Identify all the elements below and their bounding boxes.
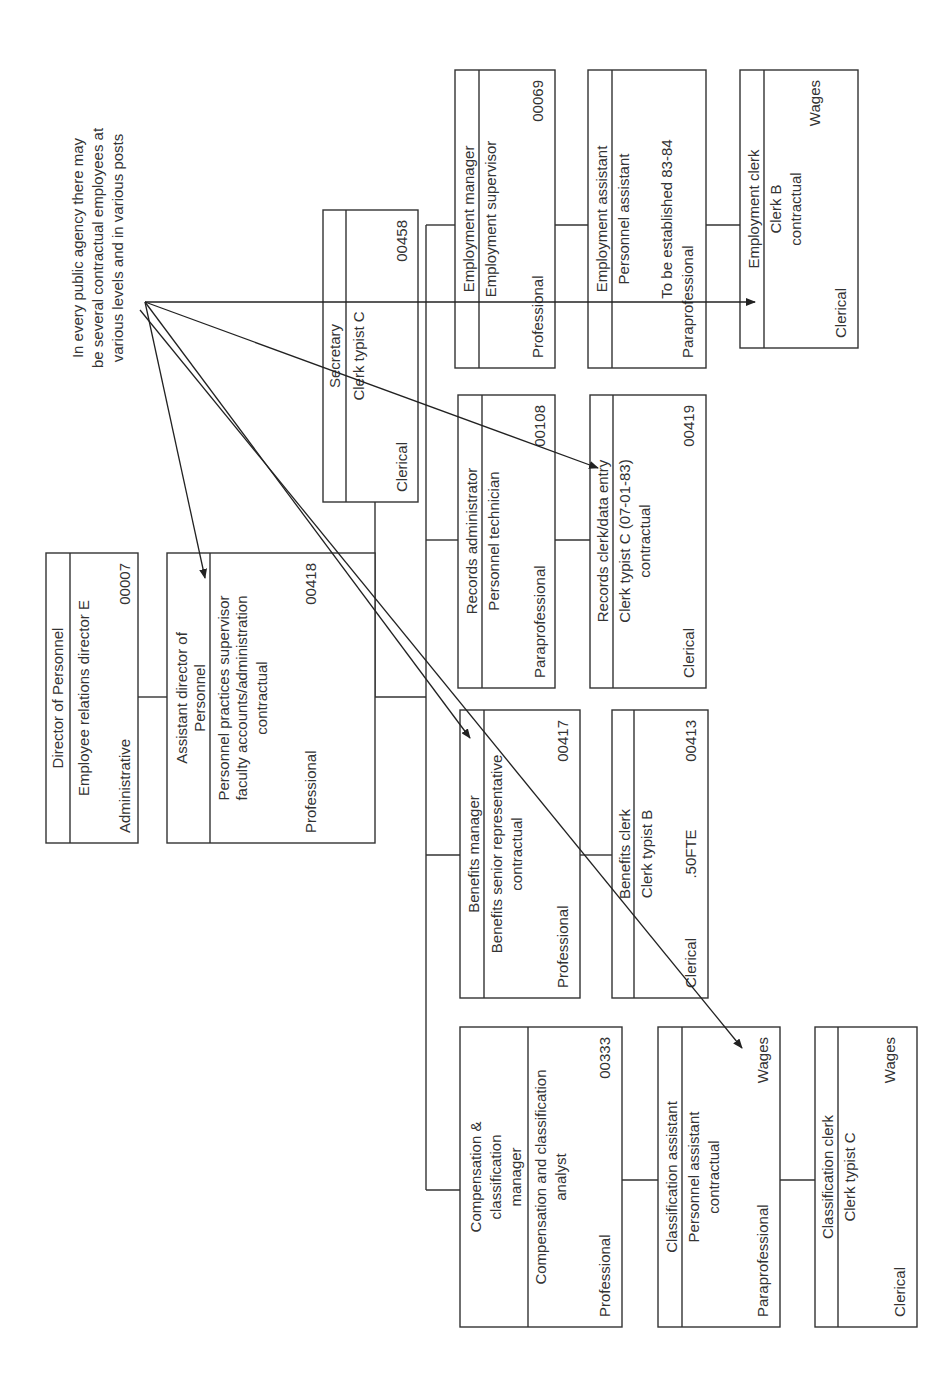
class-title: Clerk typist B	[638, 810, 655, 898]
category: Clerical	[832, 288, 849, 338]
position-employment-manager: Employment manager Employment supervisor…	[455, 70, 555, 368]
position-code: 00333	[596, 1037, 613, 1079]
annotation-line-3: various levels and in various posts	[109, 134, 126, 362]
position-title: Records administrator	[463, 468, 480, 615]
category: Professional	[596, 1234, 613, 1317]
category: Professional	[302, 750, 319, 833]
position-compensation-manager: Compensation & classification manager Co…	[460, 1027, 622, 1327]
position-classification-assistant: Classification assistant Personnel assis…	[658, 1027, 780, 1327]
position-assistant-director: Assistant director of Personnel Personne…	[167, 553, 375, 843]
class-title: Personnel assistant	[615, 153, 632, 285]
class-title: Clerk typist C	[350, 311, 367, 400]
category: Professional	[529, 275, 546, 358]
position-benefits-manager: Benefits manager Benefits senior represe…	[460, 710, 580, 998]
position-title: Employment manager	[460, 146, 477, 293]
annotation-note: In every public agency there may be seve…	[69, 127, 126, 368]
funding: Wages	[754, 1037, 771, 1083]
position-code: 00458	[393, 220, 410, 262]
arrow-to-assistant-director	[145, 302, 205, 578]
class-line-1: Benefits senior representative	[488, 755, 505, 953]
position-classification-clerk: Classification clerk Clerk typist C Cler…	[815, 1027, 917, 1327]
class-line-2: contractual	[705, 1140, 722, 1213]
class-title: Personnel technician	[485, 471, 502, 610]
position-code: 00069	[529, 80, 546, 122]
position-code: 00417	[554, 720, 571, 762]
position-title: Classification clerk	[819, 1114, 836, 1239]
fte: .50FTE	[682, 829, 699, 878]
class-line-2: analyst	[552, 1152, 569, 1200]
class-line-1: Personnel practices supervisor	[215, 595, 232, 800]
position-records-clerk: Records clerk/data entry Clerk typist C …	[590, 395, 706, 688]
annotation-line-2: be several contractual employees at	[89, 127, 106, 368]
class-title: Employment supervisor	[482, 141, 499, 298]
category: Paraprofessional	[531, 565, 548, 678]
position-employment-assistant: Employment assistant Personnel assistant…	[588, 70, 706, 368]
class-line-1: Clerk typist C (07-01-83)	[616, 459, 633, 622]
annotation-line-1: In every public agency there may	[69, 137, 86, 358]
category: Clerical	[891, 1267, 908, 1317]
position-employment-clerk: Employment clerk Clerk B contractual Cle…	[740, 70, 858, 348]
class-title: Clerk typist C	[841, 1132, 858, 1221]
position-title-line-3: manager	[507, 1147, 524, 1206]
position-code: 00419	[680, 405, 697, 447]
category: Clerical	[682, 938, 699, 988]
category: Clerical	[393, 442, 410, 492]
establishment-note: To be established 83-84	[658, 139, 675, 298]
category: Paraprofessional	[754, 1204, 771, 1317]
position-records-administrator: Records administrator Personnel technici…	[458, 395, 555, 688]
position-title: Director of Personnel	[49, 628, 66, 769]
class-line-3: contractual	[253, 661, 270, 734]
position-title-line-2: Personnel	[191, 664, 208, 732]
position-benefits-clerk: Benefits clerk Clerk typist B Clerical .…	[612, 710, 708, 998]
position-title-line-1: Assistant director of	[173, 631, 190, 764]
class-line-2: contractual	[508, 817, 525, 890]
class-title: Employee relations director E	[75, 600, 92, 796]
position-code: 00108	[531, 405, 548, 447]
position-code: 00007	[116, 563, 133, 605]
position-director-of-personnel: Director of Personnel Employee relations…	[46, 553, 138, 843]
category: Professional	[554, 905, 571, 988]
class-line-1: Compensation and classification	[532, 1069, 549, 1284]
class-line-1: Personnel assistant	[685, 1111, 702, 1243]
category: Clerical	[680, 628, 697, 678]
position-code: 00413	[682, 720, 699, 762]
funding: Wages	[881, 1037, 898, 1083]
position-code: 00418	[302, 563, 319, 605]
funding: Wages	[806, 80, 823, 126]
position-title-line-2: classification	[487, 1134, 504, 1219]
position-secretary: Secretary Clerk typist C Clerical 00458	[323, 210, 418, 502]
position-title: Employment clerk	[745, 149, 762, 269]
category: Administrative	[116, 739, 133, 833]
position-title: Secretary	[326, 323, 343, 388]
position-title-line-1: Compensation &	[467, 1122, 484, 1233]
position-title: Records clerk/data entry	[594, 459, 611, 622]
position-title: Employment assistant	[593, 145, 610, 293]
class-line-2: faculty accounts/administration	[233, 595, 250, 800]
class-line-2: contractual	[636, 504, 653, 577]
position-title: Benefits clerk	[616, 808, 633, 899]
org-chart: Director of Personnel Employee relations…	[0, 0, 947, 1378]
position-title: Classification assistant	[663, 1100, 680, 1253]
class-line-1: Clerk B	[767, 184, 784, 233]
position-title: Benefits manager	[465, 795, 482, 913]
class-line-2: contractual	[787, 172, 804, 245]
